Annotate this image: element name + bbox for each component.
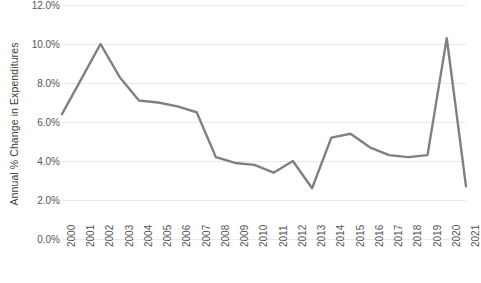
x-axis-tick-label: 2019 [432,225,443,247]
x-axis-tick-label: 2000 [66,225,77,247]
x-axis-tick-label: 2004 [143,225,154,247]
x-axis-tick-label: 2020 [451,225,462,247]
x-axis-tick-label: 2005 [162,225,173,247]
x-axis-tick-label: 2011 [278,225,289,247]
x-axis-tick-label: 2008 [220,225,231,247]
x-axis-tick-label: 2001 [85,225,96,247]
x-axis-tick-label: 2015 [355,225,366,247]
x-axis-tick-label: 2018 [412,225,423,247]
x-axis-tick-label: 2017 [393,225,404,247]
x-axis-tick-label: 2006 [181,225,192,247]
x-axis-tick-label: 2002 [104,225,115,247]
x-axis-tick-label: 2009 [239,225,250,247]
x-axis-tick-label: 2014 [335,225,346,247]
x-axis-tick-label: 2013 [316,225,327,247]
x-axis-tick-label: 2016 [374,225,385,247]
x-axis-tick-label: 2012 [297,225,308,247]
x-axis-tick-label: 2007 [201,225,212,247]
x-axis-tick-label: 2021 [470,225,481,247]
x-axis-tick-label: 2003 [124,225,135,247]
x-axis-tick-label: 2010 [258,225,269,247]
